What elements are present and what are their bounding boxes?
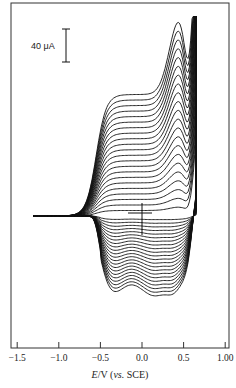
cycle-curve [34, 87, 196, 234]
cycle-curve [34, 17, 196, 293]
x-axis-label: E/V (vs. SCE) [91, 369, 149, 381]
x-axis-label-symbol: E [91, 369, 98, 380]
cyclic-voltammogram-chart: 40 μA −1.5−1.0−0.50.00.51.00 E/V (vs. SC… [0, 0, 236, 388]
x-tick-label: 0.0 [136, 353, 148, 363]
voltammogram-curves [34, 17, 196, 296]
x-tick-label: −1.0 [50, 353, 67, 363]
cycle-curve [34, 65, 196, 242]
x-axis-label-ref: SCE) [124, 369, 148, 381]
current-scale-bar [62, 29, 70, 62]
x-tick-label: 1.00 [217, 353, 234, 363]
x-tick-label: 0.5 [178, 353, 190, 363]
x-axis-label-vs: vs. [113, 369, 124, 380]
scale-bar-label: 40 μA [31, 41, 55, 51]
x-axis-ticks: −1.5−1.0−0.50.00.51.00 [9, 342, 234, 363]
x-tick-label: −1.5 [9, 353, 26, 363]
x-axis-label-unit: /V ( [98, 369, 114, 381]
x-tick-label: −0.5 [92, 353, 109, 363]
